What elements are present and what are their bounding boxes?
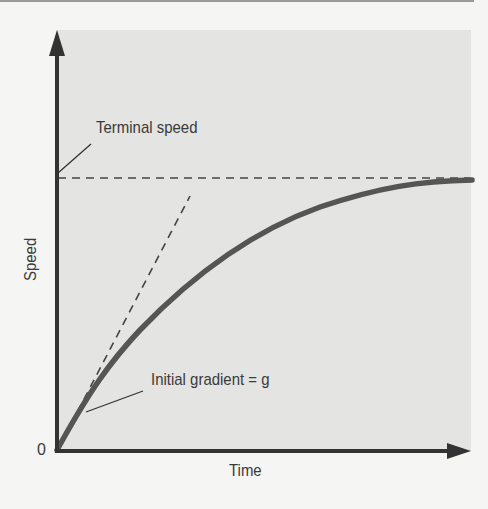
initial-leader-line <box>86 391 143 412</box>
speed-time-diagram <box>0 0 488 509</box>
origin-label: 0 <box>37 441 46 459</box>
terminal-leader-line <box>58 144 91 173</box>
initial-gradient-label: Initial gradient = g <box>151 370 270 390</box>
y-axis-label: Speed <box>21 238 41 281</box>
x-axis-arrow-icon <box>447 443 471 459</box>
speed-curve <box>57 180 472 450</box>
y-axis-arrow-icon <box>49 30 65 56</box>
x-axis-label: Time <box>229 461 262 481</box>
terminal-speed-label: Terminal speed <box>96 118 197 138</box>
